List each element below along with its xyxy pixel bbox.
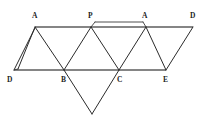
vertex-label-B-bottom: B	[61, 76, 66, 84]
edge-apex-C	[92, 70, 119, 114]
edge-E-D2	[166, 27, 193, 70]
edge-sliver-right-cap	[143, 22, 146, 27]
vertex-label-D-top-right: D	[190, 12, 196, 20]
vertex-label-E-bottom: E	[163, 76, 168, 84]
edge-flap-lower	[14, 28, 35, 70]
vertex-label-D-bottom-left: D	[7, 76, 13, 84]
edge-A2-E	[146, 27, 166, 70]
edge-B-apex	[64, 70, 92, 114]
edge-P-C	[91, 27, 119, 70]
geometry-figure: A P A D D B C E	[0, 0, 207, 118]
edge-A1-B	[35, 27, 64, 70]
edge-C-A2	[119, 27, 146, 70]
vertex-label-P-top: P	[88, 12, 93, 20]
edge-B-P	[64, 27, 91, 70]
vertex-label-C-bottom: C	[117, 76, 123, 84]
edge-sliver-left-cap	[91, 22, 95, 27]
vertex-label-A-top-left: A	[32, 12, 38, 20]
vertex-label-A-top-right: A	[142, 12, 148, 20]
